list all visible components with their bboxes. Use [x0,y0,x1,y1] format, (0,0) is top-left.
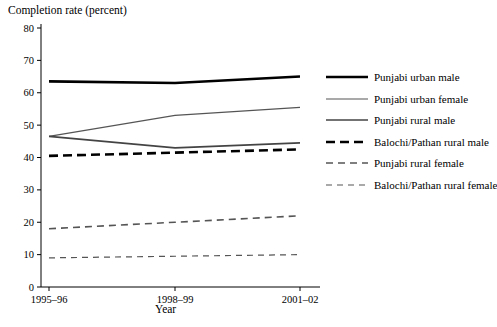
svg-text:40: 40 [24,152,35,163]
svg-text:60: 60 [24,87,35,98]
legend-label: Punjabi rural female [374,157,464,169]
x-axis-title: Year [155,303,176,315]
svg-text:50: 50 [24,120,35,131]
legend-item: Balochi/Pathan rural female [326,179,497,191]
legend-swatch-icon [326,93,368,105]
legend-item: Punjabi rural female [326,157,464,169]
chart-series-lines [49,77,300,258]
legend-item: Punjabi urban male [326,71,460,83]
svg-text:1995–96: 1995–96 [31,294,68,305]
legend-item: Punjabi rural male [326,114,455,126]
svg-text:30: 30 [24,184,35,195]
legend-swatch-icon [326,136,368,148]
legend-label: Balochi/Pathan rural male [374,136,489,148]
legend-swatch-icon [326,71,368,83]
svg-text:2001–02: 2001–02 [282,294,319,305]
svg-text:0: 0 [29,282,34,293]
legend-swatch-icon [326,114,368,126]
svg-text:80: 80 [24,23,35,34]
legend-item: Punjabi urban female [326,93,468,105]
chart-tick-labels: 010203040506070801995–961998–992001–02 [24,23,319,305]
legend-label: Punjabi urban female [374,93,468,105]
svg-text:20: 20 [24,217,35,228]
legend-label: Balochi/Pathan rural female [374,179,497,191]
legend-swatch-icon [326,157,368,169]
svg-text:70: 70 [24,55,35,66]
legend-item: Balochi/Pathan rural male [326,136,489,148]
chart-title: Completion rate (percent) [8,4,127,16]
svg-text:10: 10 [24,249,35,260]
legend-swatch-icon [326,179,368,191]
legend-label: Punjabi rural male [374,114,455,126]
chart-axes [37,24,320,291]
legend-label: Punjabi urban male [374,71,460,83]
